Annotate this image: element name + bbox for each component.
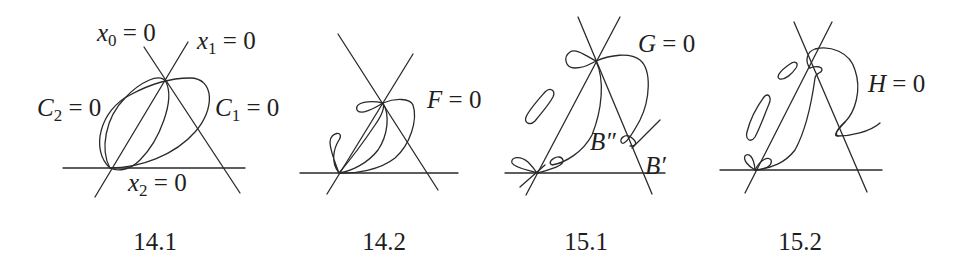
line-b	[526, 17, 620, 195]
loop-top	[566, 51, 596, 68]
caption-15-1: 15.1	[564, 229, 608, 254]
caption-14-1: 14.1	[133, 229, 177, 254]
label-x0: x0 = 0	[97, 20, 156, 49]
label-x1: x1 = 0	[197, 28, 256, 57]
label-f: F = 0	[427, 87, 481, 112]
loop-bottom-left	[745, 155, 755, 170]
label-x2: x2 = 0	[128, 170, 187, 199]
oval-component	[526, 90, 554, 124]
loop-bottom	[512, 158, 537, 173]
label-b-double-prime: B″	[590, 129, 616, 154]
curve-f	[330, 99, 414, 173]
figure-15-2-drawing	[720, 22, 882, 193]
label-c1: C1 = 0	[215, 95, 279, 124]
figure-14-2-drawing	[300, 34, 458, 194]
oval-large	[747, 95, 770, 140]
conic-c1	[100, 78, 210, 168]
line-a	[794, 22, 867, 192]
caption-14-2: 14.2	[362, 229, 406, 254]
label-h: H = 0	[868, 71, 925, 96]
label-c2: C2 = 0	[37, 95, 101, 124]
label-g: G = 0	[638, 31, 695, 56]
oval-small	[778, 62, 797, 79]
label-b-prime: B′	[645, 153, 666, 178]
caption-15-2: 15.2	[778, 229, 822, 254]
line-a	[338, 34, 438, 190]
